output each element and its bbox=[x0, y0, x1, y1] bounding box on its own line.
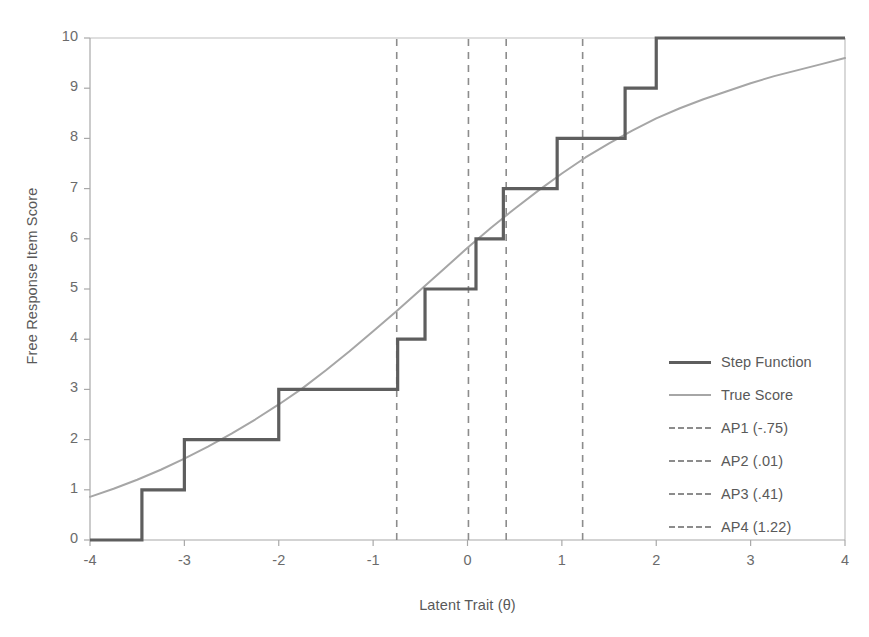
legend-item: AP2 (.01) bbox=[667, 444, 857, 477]
y-tick-label: 3 bbox=[38, 379, 78, 395]
legend-item-label: True Score bbox=[715, 387, 793, 403]
x-tick-label: 3 bbox=[721, 552, 781, 568]
x-tick-label: 2 bbox=[626, 552, 686, 568]
legend-swatch-dashed bbox=[667, 520, 715, 534]
y-tick-label: 7 bbox=[38, 179, 78, 195]
chart-legend: Step FunctionTrue ScoreAP1 (-.75)AP2 (.0… bbox=[667, 345, 857, 543]
x-tick-label: 4 bbox=[815, 552, 869, 568]
y-tick-label: 1 bbox=[38, 480, 78, 496]
x-tick-label: 0 bbox=[438, 552, 498, 568]
legend-item-label: AP3 (.41) bbox=[715, 486, 783, 502]
y-tick-label: 4 bbox=[38, 329, 78, 345]
x-tick-label: -2 bbox=[249, 552, 309, 568]
legend-swatch-solid-thick bbox=[667, 355, 715, 369]
legend-swatch-solid-thin bbox=[667, 388, 715, 402]
legend-item: AP3 (.41) bbox=[667, 477, 857, 510]
legend-item: Step Function bbox=[667, 345, 857, 378]
legend-swatch-dashed bbox=[667, 487, 715, 501]
y-tick-label: 10 bbox=[38, 28, 78, 44]
y-tick-label: 8 bbox=[38, 128, 78, 144]
y-tick-label: 6 bbox=[38, 229, 78, 245]
y-tick-label: 9 bbox=[38, 78, 78, 94]
chart-figure: Free Response Item Score Latent Trait (θ… bbox=[0, 0, 869, 637]
legend-item: True Score bbox=[667, 378, 857, 411]
y-tick-label: 5 bbox=[38, 279, 78, 295]
x-tick-label: -3 bbox=[154, 552, 214, 568]
x-tick-label: -4 bbox=[60, 552, 120, 568]
legend-item-label: Step Function bbox=[715, 354, 812, 370]
legend-swatch-dashed bbox=[667, 421, 715, 435]
y-tick-label: 2 bbox=[38, 430, 78, 446]
x-axis-label: Latent Trait (θ) bbox=[90, 597, 845, 613]
legend-item-label: AP4 (1.22) bbox=[715, 519, 791, 535]
legend-item-label: AP1 (-.75) bbox=[715, 420, 788, 436]
legend-item: AP4 (1.22) bbox=[667, 510, 857, 543]
legend-item-label: AP2 (.01) bbox=[715, 453, 783, 469]
x-tick-label: -1 bbox=[343, 552, 403, 568]
legend-item: AP1 (-.75) bbox=[667, 411, 857, 444]
legend-swatch-dashed bbox=[667, 454, 715, 468]
x-tick-label: 1 bbox=[532, 552, 592, 568]
y-tick-label: 0 bbox=[38, 530, 78, 546]
